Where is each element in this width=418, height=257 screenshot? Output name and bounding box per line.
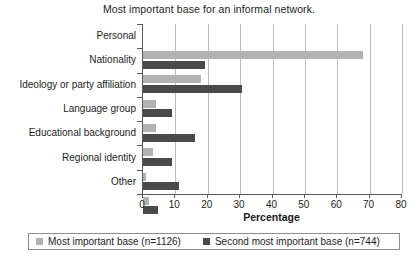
gridline [240,24,241,194]
x-tick-mark [304,194,305,198]
bar [143,124,156,132]
y-tick-mark [137,194,142,195]
bar-chart: Most important base for an informal netw… [0,0,418,257]
x-tick-label: 0 [127,199,157,210]
legend-swatch-icon [203,238,210,245]
category-label: Language group [0,103,136,114]
x-tick-mark [336,194,337,198]
category-label: Personal [0,30,136,41]
bar [143,75,201,83]
gridline [208,24,209,194]
x-axis-title: Percentage [142,211,401,223]
x-tick-label: 60 [321,199,351,210]
gridline [337,24,338,194]
bar [143,182,179,190]
gridline [402,24,403,194]
bar [143,158,172,166]
bar [143,134,195,142]
y-tick-mark [137,24,142,25]
y-tick-mark [137,145,142,146]
y-tick-mark [137,121,142,122]
y-tick-mark [137,48,142,49]
legend-label: Most important base (n=1126) [48,236,181,247]
category-label: Regional identity [0,152,136,163]
x-tick-label: 30 [224,199,254,210]
x-tick-mark [239,194,240,198]
x-tick-mark [142,194,143,198]
y-tick-mark [137,97,142,98]
x-tick-mark [174,194,175,198]
plot-area [142,24,401,194]
gridline [273,24,274,194]
x-tick-label: 50 [289,199,319,210]
category-label: Educational background [0,127,136,138]
bar [143,148,153,156]
gridline [370,24,371,194]
gridline [305,24,306,194]
x-tick-mark [369,194,370,198]
legend-label: Second most important base (n=744) [215,236,380,247]
x-tick-label: 40 [257,199,287,210]
x-tick-label: 80 [386,199,416,210]
bar [143,51,363,59]
category-label: Other [0,176,136,187]
category-label: Ideology or party affiliation [0,79,136,90]
gridline [175,24,176,194]
bar [143,85,242,93]
x-tick-mark [207,194,208,198]
x-tick-label: 10 [159,199,189,210]
legend-item: Second most important base (n=744) [203,236,380,247]
chart-legend: Most important base (n=1126)Second most … [28,233,400,250]
x-tick-label: 70 [354,199,384,210]
x-tick-mark [401,194,402,198]
chart-title: Most important base for an informal netw… [0,3,418,15]
category-label: Nationality [0,54,136,65]
bar [143,61,205,69]
legend-item: Most important base (n=1126) [36,236,181,247]
legend-swatch-icon [36,238,43,245]
bar [143,100,156,108]
bar [143,109,172,117]
bar [143,173,146,181]
x-tick-mark [272,194,273,198]
y-tick-mark [137,170,142,171]
x-tick-label: 20 [192,199,222,210]
y-tick-mark [137,73,142,74]
